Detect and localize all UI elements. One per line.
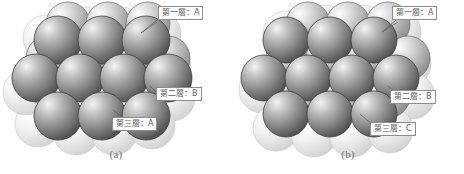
label-layer-two-b: 第二層：B [390, 90, 436, 104]
close-packing-figure: 第一層：A 第二層：B 第三層：A (a) [0, 0, 464, 174]
layer-one-spheres-b [241, 17, 419, 137]
caption-a: (a) [0, 148, 232, 160]
caption-b: (b) [232, 148, 464, 160]
layer-one-spheres-a [12, 16, 192, 140]
label-layer-three-b: 第三層：C [370, 122, 416, 136]
panel-a: 第一層：A 第二層：B 第三層：A (a) [0, 0, 232, 174]
label-layer-one-a: 第一層：A [158, 6, 203, 20]
label-layer-two-a: 第二層：B [156, 87, 202, 101]
label-layer-three-a: 第三層：A [112, 117, 157, 131]
panel-b: 第一層：A 第二層：B 第三層：C (b) [232, 0, 464, 174]
label-layer-one-b: 第一層：A [392, 6, 437, 20]
